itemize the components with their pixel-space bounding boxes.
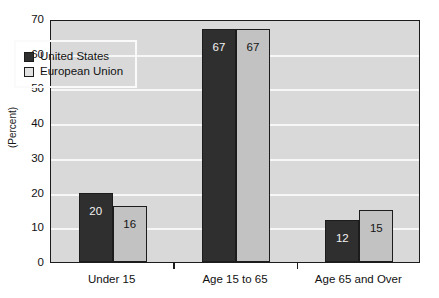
legend-item-label: European Union [40, 66, 123, 78]
bar-us: 12 [325, 220, 359, 262]
y-axis-tick-label: 10 [18, 222, 44, 234]
bar-us: 20 [79, 193, 113, 262]
dark-swatch-icon [24, 52, 34, 62]
x-axis-category-label: Age 15 to 65 [202, 274, 267, 286]
x-axis-tick [297, 263, 299, 269]
bar-value-label: 16 [114, 219, 146, 231]
bar-value-label: 12 [326, 233, 358, 245]
y-axis-tick-label: 20 [18, 188, 44, 200]
y-axis-tick-label: 0 [18, 257, 44, 269]
bar-value-label: 67 [203, 42, 235, 54]
bar-chart: (Percent) 706050403020100 201667671215 U… [0, 0, 439, 298]
legend-item-label: United States [40, 51, 109, 63]
bar-eu: 67 [236, 29, 270, 262]
y-axis-tick-label: 30 [18, 153, 44, 165]
x-axis-category-label: Under 15 [88, 274, 135, 286]
bar-eu: 15 [359, 210, 393, 262]
y-axis-tick-label: 40 [18, 118, 44, 130]
y-axis-tick-label: 70 [18, 14, 44, 26]
x-axis-category-label: Age 65 and Over [315, 274, 402, 286]
legend-item: United States [24, 49, 123, 64]
bar-eu: 16 [113, 206, 147, 262]
bar-us: 67 [202, 29, 236, 262]
bar-value-label: 67 [237, 42, 269, 54]
light-swatch-icon [24, 67, 34, 77]
bar-value-label: 20 [80, 206, 112, 218]
x-axis-tick [173, 263, 175, 269]
chart-legend: United StatesEuropean Union [14, 40, 137, 88]
legend-item: European Union [24, 64, 123, 79]
bar-value-label: 15 [360, 223, 392, 235]
